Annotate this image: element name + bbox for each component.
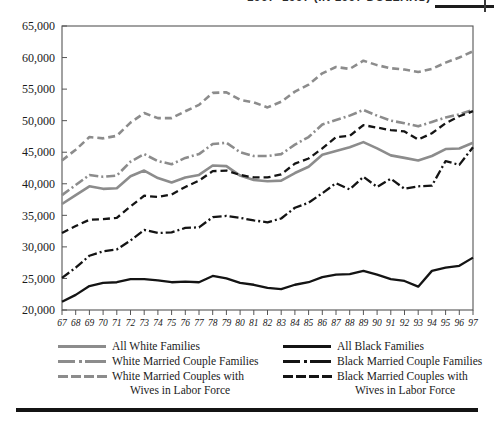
legend-swatch-solid [283,340,333,353]
legend-item[interactable]: All Black Families [283,340,494,354]
x-axis-tick-label: 69 [85,318,95,328]
x-axis-tick-label: 90 [372,318,382,328]
y-axis-tick-label: 55,000 [22,82,55,96]
legend-item-label: White Married Couple Families [112,355,259,368]
y-axis-tick-label: 60,000 [22,51,55,65]
chart-svg: 20,00025,00030,00035,00040,00045,00050,0… [0,18,494,330]
x-axis-tick-label: 95 [441,318,451,328]
y-axis-tick-label: 50,000 [22,114,55,128]
x-axis-tick-label: 85 [304,318,314,328]
x-axis-tick-labels: 6768697071727374757677787980818283848586… [57,318,479,328]
legend-item-label: Black Married Couple Families [337,355,482,368]
x-axis-tick-label: 68 [71,318,81,328]
legend-swatch-dashdot [283,355,333,368]
legend-item[interactable]: Black Married Couple Families [283,355,494,369]
legend-item[interactable]: Black Married Couples with [283,370,494,384]
legend-column-black: All Black FamiliesBlack Married Couple F… [283,340,494,397]
x-axis-tick-label: 82 [263,318,273,328]
x-axis-tick-label: 81 [249,318,259,328]
x-axis-tick-label: 87 [331,318,342,328]
x-axis-tick-label: 96 [455,318,465,328]
x-axis-tick-label: 67 [57,318,68,328]
data-series-line [62,258,473,302]
x-axis-tick-label: 92 [400,318,410,328]
legend-item-label: White Married Couples with [112,370,244,383]
title-side-rule [484,0,486,12]
data-series-line [62,51,473,160]
page-title: 1967–1997 (IN 1997 DOLLARS) [247,0,494,4]
x-axis-tick-label: 93 [413,318,423,328]
axis-ticks [62,26,473,315]
x-axis-tick-label: 80 [235,318,245,328]
legend-item-label: All White Families [112,340,200,353]
legend-swatch-dashed [58,370,108,383]
y-axis-tick-label: 20,000 [22,303,55,317]
chart-title-strip: 1967–1997 (IN 1997 DOLLARS) [247,0,494,10]
line-chart: 20,00025,00030,00035,00040,00045,00050,0… [0,18,494,330]
x-axis-tick-label: 75 [167,318,177,328]
legend-item[interactable]: White Married Couples with [58,370,283,384]
bottom-divider-rule [16,408,478,412]
y-axis-tick-label: 45,000 [22,145,55,159]
y-axis-tick-label: 25,000 [22,272,55,286]
chart-legend: All White FamiliesWhite Married Couple F… [0,340,494,398]
legend-item-label: Black Married Couples with [337,370,468,383]
data-series-line [62,111,473,233]
legend-item[interactable]: All White Families [58,340,283,354]
x-axis-tick-label: 71 [112,318,122,328]
legend-item-label-line2: Wives in Labor Force [283,384,494,397]
data-series-line [62,142,473,204]
y-axis-tick-label: 40,000 [22,177,55,191]
legend-swatch-solid [58,340,108,353]
data-series [62,51,473,302]
legend-column-white: All White FamiliesWhite Married Couple F… [58,340,283,397]
x-axis-tick-label: 89 [359,318,369,328]
legend-item-label: All Black Families [337,340,424,353]
legend-item-label-line2: Wives in Labor Force [58,384,283,397]
x-axis-tick-label: 77 [194,318,205,328]
legend-swatch-dashed [283,370,333,383]
x-axis-tick-label: 72 [126,318,136,328]
legend-swatch-dashdot [58,355,108,368]
x-axis-tick-label: 86 [318,318,328,328]
y-axis-tick-label: 30,000 [22,240,55,254]
x-axis-tick-label: 97 [468,318,479,328]
y-axis-tick-label: 65,000 [22,19,55,33]
x-axis-tick-label: 78 [208,318,218,328]
x-axis-tick-label: 88 [345,318,355,328]
y-axis-tick-label: 35,000 [22,209,55,223]
legend-item[interactable]: White Married Couple Families [58,355,283,369]
x-axis-tick-label: 84 [290,318,300,328]
x-axis-tick-label: 79 [222,318,232,328]
x-axis-tick-label: 73 [139,318,149,328]
x-axis-tick-label: 70 [98,318,108,328]
x-axis-tick-label: 83 [276,318,286,328]
x-axis-tick-label: 74 [153,318,163,328]
y-axis-tick-labels: 20,00025,00030,00035,00040,00045,00050,0… [22,19,55,317]
x-axis-tick-label: 94 [427,318,437,328]
x-axis-tick-label: 76 [181,318,191,328]
x-axis-tick-label: 91 [386,318,396,328]
